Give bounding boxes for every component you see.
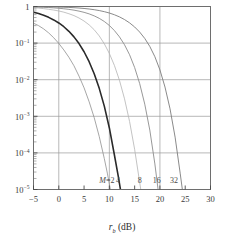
- x-tick-label: −5: [29, 194, 38, 204]
- x-tick-label: 0: [57, 194, 61, 204]
- y-tick-label: 1: [25, 2, 29, 12]
- x-tick-label: 20: [156, 194, 165, 204]
- x-tick-label: 10: [105, 194, 114, 204]
- x-tick-label: 15: [130, 194, 139, 204]
- x-tick-label: 5: [82, 194, 86, 204]
- x-tick-label: 25: [181, 194, 190, 204]
- chart-container: −5051015202530 110−110−210−310−410−5 M=2…: [0, 0, 225, 235]
- error-probability-chart: −5051015202530 110−110−210−310−410−5 M=2…: [0, 0, 225, 235]
- curve-label-M8: 8: [138, 176, 142, 185]
- curve-label-M16: 16: [153, 176, 161, 185]
- x-tick-label: 30: [206, 194, 215, 204]
- curve-label-M4: 4: [116, 176, 120, 185]
- curve-label-M2: M=2: [98, 176, 114, 185]
- curve-label-M32: 32: [170, 176, 178, 185]
